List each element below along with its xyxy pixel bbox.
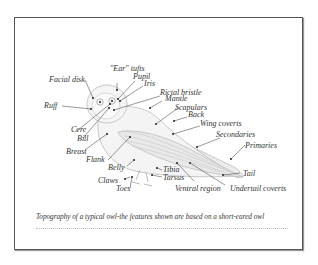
owl-diagram: "Ear" tufts Pupil Iris Facial disk Ricta… — [0, 0, 318, 265]
caption-rule — [36, 228, 288, 229]
label-secondaries: Secondaries — [216, 130, 255, 139]
label-flank: Flank — [85, 155, 105, 164]
label-tail: Tail — [243, 169, 256, 178]
label-breast: Breast — [66, 147, 87, 156]
label-undertail-coverts: Undertail coverts — [230, 184, 286, 193]
label-primaries: Primaries — [244, 141, 277, 150]
label-claws: Claws — [98, 176, 118, 185]
figure-caption: Topography of a typical owl-the features… — [36, 213, 296, 221]
label-bill: Bill — [77, 134, 89, 143]
label-belly: Belly — [108, 163, 125, 172]
label-cere: Cere — [71, 125, 87, 134]
label-facial-disk: Facial disk — [48, 75, 85, 84]
label-tarsus: Tarsus — [163, 173, 184, 182]
label-back: Back — [188, 110, 204, 119]
label-ruff: Ruff — [43, 101, 59, 110]
label-wing-coverts: Wing coverts — [200, 119, 242, 128]
label-toes: Toes — [116, 184, 130, 193]
label-mantle: Mantle — [164, 94, 188, 103]
label-ventral-region: Ventral region — [175, 184, 221, 193]
label-iris: Iris — [143, 79, 155, 88]
